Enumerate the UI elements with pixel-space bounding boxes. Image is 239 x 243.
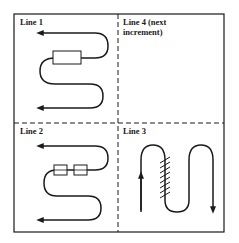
- line-1-path: [40, 33, 108, 108]
- label-line-2: Line 2: [20, 126, 43, 136]
- line-2-path: [40, 146, 108, 220]
- label-line-4: Line 4 (next increment): [123, 17, 166, 37]
- label-line-1: Line 1: [20, 17, 43, 27]
- label-line-4-text-2: increment): [123, 27, 166, 37]
- label-line-3: Line 3: [123, 126, 146, 136]
- quadrant-line-3: [141, 145, 213, 212]
- line-3-path: [141, 145, 213, 212]
- line-1-component: [53, 51, 81, 64]
- routing-diagram: [0, 0, 239, 243]
- quadrant-line-2: [40, 146, 108, 220]
- label-line-4-text: Line 4 (next: [123, 17, 166, 27]
- quadrant-line-1: [40, 33, 108, 108]
